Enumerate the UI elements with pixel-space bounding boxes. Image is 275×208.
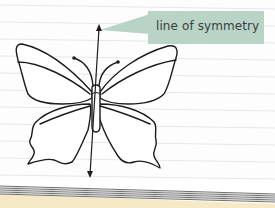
right-hindwing: [99, 104, 161, 168]
left-forewing: [16, 44, 92, 104]
book-page-edges: [0, 180, 275, 208]
right-forewing: [100, 46, 177, 104]
left-hindwing: [28, 104, 91, 164]
butterfly-illustration: [0, 0, 275, 208]
lined-paper-page: line of symmetry: [0, 0, 275, 208]
